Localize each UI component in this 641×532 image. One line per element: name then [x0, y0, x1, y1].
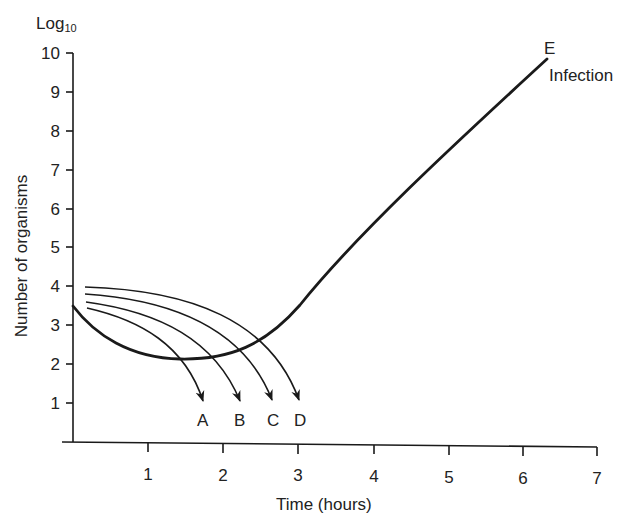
y-tick-2: 2 [30, 356, 60, 373]
x-tick-3: 3 [288, 467, 308, 484]
y-scale-label: Log10 [36, 15, 77, 34]
y-axis-title: Number of organisms [12, 175, 32, 338]
label-infection: Infection [549, 67, 613, 84]
y-tick-10: 10 [30, 45, 60, 62]
x-tick-6: 6 [513, 470, 533, 487]
chart-canvas [0, 0, 641, 532]
y-tick-1: 1 [30, 395, 60, 412]
log-base-text: Log [36, 14, 64, 33]
x-tick-7: 7 [587, 470, 607, 487]
x-axis [62, 442, 597, 456]
label-e: E [544, 40, 555, 57]
series-e-infection-curve [73, 59, 547, 359]
label-c: C [267, 412, 279, 429]
y-tick-6: 6 [30, 201, 60, 218]
x-tick-5: 5 [439, 469, 459, 486]
label-b: B [234, 412, 245, 429]
label-a: A [197, 412, 208, 429]
y-tick-5: 5 [30, 239, 60, 256]
y-tick-9: 9 [30, 84, 60, 101]
label-d: D [294, 412, 306, 429]
series-b-curve [86, 302, 240, 401]
y-tick-3: 3 [30, 317, 60, 334]
y-tick-8: 8 [30, 123, 60, 140]
x-tick-1: 1 [138, 466, 158, 483]
x-tick-2: 2 [213, 467, 233, 484]
y-tick-4: 4 [30, 278, 60, 295]
y-axis [66, 53, 73, 442]
log-subscript: 10 [64, 22, 76, 34]
x-tick-4: 4 [364, 468, 384, 485]
x-axis-title: Time (hours) [276, 496, 372, 513]
y-tick-7: 7 [30, 162, 60, 179]
